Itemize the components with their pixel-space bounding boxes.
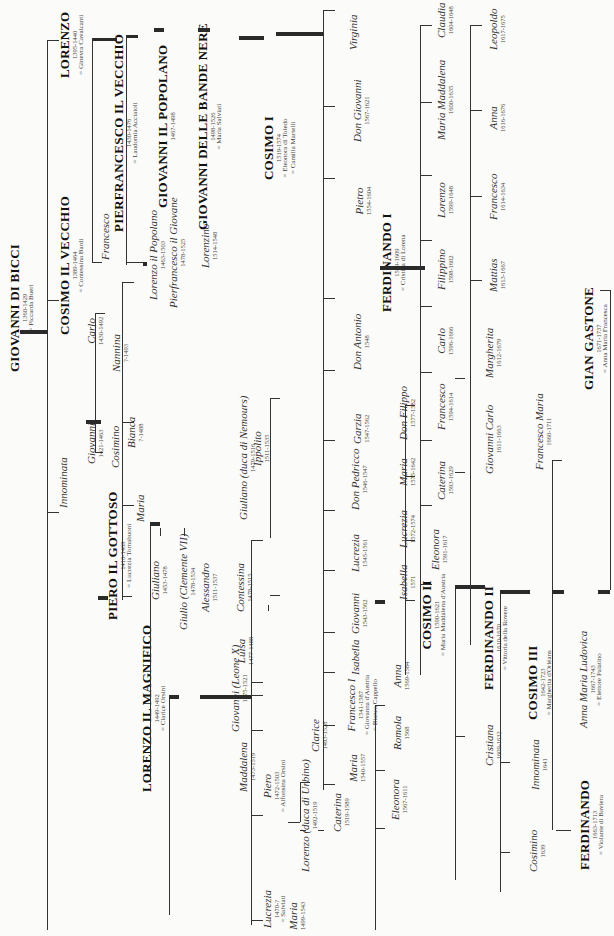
person-name: Cosimino — [110, 426, 122, 468]
person-dates: 1567-1611 — [402, 779, 409, 820]
person-dates: 1596-1666 — [448, 327, 455, 355]
person-ferdinando-ii: FERDINANDO II1610-1670= Vittoria della R… — [482, 586, 510, 690]
descent-line-main — [20, 330, 48, 334]
person-name: Contessina — [235, 563, 247, 612]
person-dates: 1540-1557 — [360, 754, 367, 782]
person-dates: 1421-1463 — [98, 423, 105, 464]
person-dates: 1546-1547 — [362, 449, 369, 510]
person-name: Lucrezia — [262, 890, 274, 928]
person-dates: 1572-1574 — [410, 510, 417, 548]
descent-line — [375, 705, 385, 706]
person-maria-maddalena: Maria Maddalena1600-1635 — [436, 60, 454, 140]
person-dates: 1617-1675 — [500, 8, 507, 50]
person-name: Francesco — [100, 214, 112, 260]
person-ippolito: Ippolito1511-1535 — [252, 431, 270, 466]
person-name: Pierfrancesco il Giovane — [168, 197, 180, 308]
descent-line — [251, 815, 263, 816]
person-name: Filippino — [436, 249, 448, 290]
person-innominata-1: Innominata — [58, 457, 70, 508]
person-name: Francesco — [436, 384, 448, 430]
person-caterina-2: Caterina1593-1629 — [436, 461, 454, 500]
descent-line — [323, 632, 335, 633]
descent-line — [318, 830, 324, 831]
descent-line — [47, 40, 59, 41]
descent-line — [270, 595, 280, 596]
descent-line — [300, 782, 301, 822]
descent-line — [122, 596, 132, 597]
descent-line — [420, 505, 432, 506]
person-isabella-1: Isabella — [350, 640, 362, 675]
person-giovanni-bande-nere: GIOVANNI DELLE BANDE NERE1498-1526= Mari… — [196, 23, 224, 230]
person-name: COSIMO IL VECCHIO — [58, 196, 72, 335]
person-dates: 1641 — [542, 739, 549, 790]
person-filippino: Filippino1598-1602 — [436, 249, 454, 290]
person-giovanni-carlo: Giovanni Carlo1611-1663 — [484, 405, 502, 474]
descent-line — [420, 240, 432, 241]
descent-line — [288, 822, 300, 823]
descent-line-main — [375, 600, 385, 604]
person-don-filippo: Don Filippo1577-1582 — [398, 386, 416, 440]
descent-line-main — [102, 38, 117, 41]
person-name: GIOVANNI IL POPOLANO — [156, 45, 170, 208]
person-name: Anna Maria Ludovica — [578, 631, 590, 728]
person-giovanni-3: Giovanni1543-1562 — [350, 593, 368, 634]
person-giovanni-leone: Giovanni (Leone X)1475-1521 — [230, 645, 248, 732]
descent-line — [552, 590, 553, 830]
person-carlo-2: Carlo1596-1666 — [436, 327, 454, 355]
person-name: Caterina — [332, 793, 344, 832]
descent-line — [47, 512, 59, 513]
person-dates: 1478-1534 — [190, 533, 197, 630]
person-name: Anna — [392, 662, 404, 690]
descent-line — [323, 10, 335, 11]
descent-line — [420, 175, 432, 176]
person-name: Giovanni (Leone X) — [230, 645, 242, 732]
descent-line-main — [200, 695, 252, 699]
person-piero-gottoso: PIERO IL GOTTOSO1416-1469= Lucrezia Torn… — [106, 491, 134, 620]
person-lucrezia-2: Lucrezia1545-1561 — [350, 534, 368, 572]
person-name: Isabella — [398, 565, 410, 600]
person-dates: 1598-1602 — [448, 249, 455, 290]
person-name: Lorenzo il Popolano — [148, 210, 160, 300]
person-name: Claudia — [436, 3, 448, 38]
person-name: Anna — [488, 104, 500, 132]
person-don-antonio: Don Antonio1548 — [352, 314, 370, 370]
person-giuliano-1: Giuliano1453-1478 — [150, 561, 168, 600]
person-dates: 1616-1676 — [500, 104, 507, 132]
person-ferdinando-i: FERDINANDO I1549-1609= Cristina di Loren… — [380, 213, 408, 312]
person-romola: Romola1568 — [392, 716, 410, 750]
person-eleonora-2: Eleonora1591-1617 — [430, 529, 448, 570]
descent-line-main — [98, 596, 108, 600]
descent-line — [160, 528, 161, 536]
person-don-pedricco: Don Pedricco1546-1547 — [350, 449, 368, 510]
person-maria-salviati: Maria1499-1543 — [288, 902, 306, 930]
person-name: Lucrezia — [398, 510, 410, 548]
person-anna-2: Anna1616-1676 — [488, 104, 506, 132]
person-dates: 1547-1562 — [364, 413, 371, 444]
person-dates: 1548 — [364, 314, 371, 370]
person-dates: 1463-1503 — [160, 210, 167, 300]
person-dates: 1543-1562 — [362, 593, 369, 634]
person-name: COSIMO I — [262, 116, 276, 180]
person-pietro: Pietro1554-1604 — [354, 187, 372, 215]
descent-line-main — [598, 590, 610, 594]
person-dates: 1575-1642 — [410, 458, 417, 486]
person-name: Don Antonio — [352, 314, 364, 370]
person-name: Cosimino — [528, 830, 540, 872]
person-dates: 1609-1632 — [496, 724, 503, 766]
descent-line — [300, 782, 310, 783]
person-name: Piero — [262, 760, 274, 812]
person-name: Leopoldo — [488, 8, 500, 50]
person-dates: 1660-1711 — [546, 393, 553, 470]
person-mattias: Mattias1613-1667 — [488, 258, 506, 292]
person-name: LORENZO IL MAGNIFICO — [140, 625, 154, 792]
person-name: COSIMO II — [420, 574, 434, 656]
person-dates: 1478-1515 — [247, 563, 254, 612]
person-spouse: = Anna Maria Francesca — [602, 287, 609, 390]
person-dates: 1599-1648 — [448, 182, 455, 218]
descent-line — [92, 38, 93, 263]
person-name: Garzia — [352, 413, 364, 444]
descent-line — [420, 440, 432, 441]
descent-line-main — [150, 522, 160, 526]
descent-line — [323, 370, 335, 371]
person-margherita: Margherita1612-1679 — [484, 328, 502, 378]
